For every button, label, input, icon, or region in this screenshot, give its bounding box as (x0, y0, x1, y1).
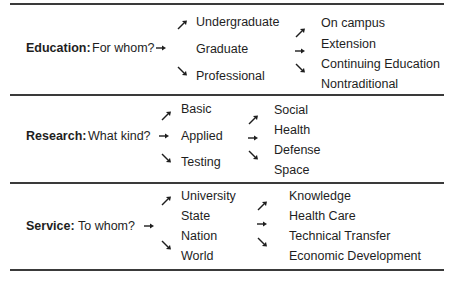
list-item: Social (274, 103, 308, 117)
arrow-up-right-icon (160, 111, 172, 121)
list-item: Defense (274, 143, 321, 157)
list-item: On campus (321, 16, 385, 30)
arrow-down-right-icon (294, 63, 306, 73)
arrow-up-right-icon (160, 196, 172, 206)
list-item: Continuing Education (321, 57, 440, 71)
list-item: Space (274, 163, 309, 177)
arrow-down-right-icon (160, 153, 172, 163)
category-label: Service: (26, 219, 75, 233)
bottom-rule (10, 269, 444, 271)
question-label: To whom? (78, 219, 135, 233)
list-item: Applied (181, 129, 223, 143)
question-label: What kind? (88, 129, 151, 143)
list-item: Basic (181, 102, 212, 116)
list-item: Nation (181, 229, 217, 243)
arrow-right-icon (143, 221, 155, 231)
list-item: Health Care (289, 209, 356, 223)
arrow-down-right-icon (247, 150, 259, 160)
list-item: Health (274, 123, 310, 137)
list-item: Nontraditional (321, 77, 398, 91)
arrow-up-right-icon (256, 201, 268, 211)
question-label: For whom? (92, 41, 155, 55)
arrow-down-right-icon (160, 240, 172, 250)
list-item: Technical Transfer (289, 229, 390, 243)
list-item: Knowledge (289, 189, 351, 203)
list-item: Professional (196, 69, 265, 83)
category-label: Research: (26, 129, 86, 143)
list-item: Economic Development (289, 249, 421, 263)
arrow-right-icon (247, 133, 259, 143)
divider-rule (10, 182, 444, 184)
arrow-up-right-icon (247, 115, 259, 125)
arrow-right-icon (155, 43, 167, 53)
list-item: Graduate (196, 42, 248, 56)
arrow-down-right-icon (256, 237, 268, 247)
top-rule (10, 3, 444, 5)
list-item: State (181, 209, 210, 223)
arrow-up-right-icon (176, 20, 188, 30)
arrow-down-right-icon (176, 66, 188, 76)
category-label: Education: (26, 41, 91, 55)
arrow-right-icon (256, 219, 268, 229)
list-item: Testing (181, 155, 221, 169)
arrow-right-icon (158, 131, 170, 141)
list-item: Extension (321, 37, 376, 51)
arrow-up-right-icon (294, 28, 306, 38)
list-item: World (181, 249, 213, 263)
list-item: Undergraduate (196, 15, 279, 29)
list-item: University (181, 189, 236, 203)
divider-rule (10, 94, 444, 96)
arrow-right-icon (294, 46, 306, 56)
